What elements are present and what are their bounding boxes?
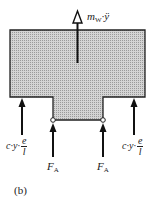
pin-joint-right-icon xyxy=(101,118,106,123)
label-sub: A xyxy=(54,166,59,174)
spring-force-left-label: c·y·el xyxy=(6,136,27,157)
label-prefix: c·y· xyxy=(6,140,20,151)
free-body-diagram xyxy=(0,0,153,204)
fraction: el xyxy=(21,136,27,157)
support-force-left-label: FA xyxy=(47,161,59,174)
label-prefix: c·y· xyxy=(122,140,136,151)
figure-caption: (b) xyxy=(14,184,27,196)
inertia-force-label: mW·ÿ xyxy=(87,11,109,24)
denominator: l xyxy=(137,147,143,157)
label-sub: W xyxy=(95,16,102,24)
fraction: el xyxy=(137,136,143,157)
label-main: F xyxy=(97,160,104,172)
spring-force-left-arrow xyxy=(19,98,26,135)
spring-force-right-label: c·y·el xyxy=(122,136,143,157)
label-sub: A xyxy=(104,166,109,174)
pin-joint-left-icon xyxy=(51,118,56,123)
label-rest: ·ÿ xyxy=(102,10,110,22)
label-main: m xyxy=(87,10,95,22)
spring-force-right-arrow xyxy=(131,98,138,135)
denominator: l xyxy=(21,147,27,157)
support-force-right-arrow xyxy=(100,123,107,157)
support-force-left-arrow xyxy=(50,123,57,157)
support-force-right-label: FA xyxy=(97,161,109,174)
label-main: F xyxy=(47,160,54,172)
